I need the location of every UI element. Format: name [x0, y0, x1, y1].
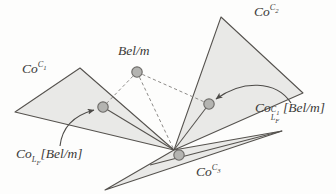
point-projection-c2 — [204, 99, 214, 109]
label-cone-c3-base: Co — [196, 164, 212, 179]
label-cone-c2-base: Co — [254, 4, 270, 19]
label-projection-lf-base: Co — [16, 146, 32, 161]
point-projection-c3 — [174, 150, 184, 160]
label-cone-c1-superscript: C1 — [38, 60, 47, 69]
label-projection-lf-c1: CoC1LF[Bel/m] — [255, 101, 325, 115]
label-cone-c1: CoC1 — [22, 61, 47, 75]
cone-projection-figure: CoC2 CoC1 Bel/m CoC3 CoLF[Bel/m] CoC1LF[… — [0, 0, 336, 194]
label-belief: Bel/m — [118, 44, 150, 58]
label-cone-c3: CoC3 — [196, 164, 221, 178]
point-belief — [132, 67, 142, 77]
cone-c2-shape — [174, 17, 303, 150]
label-cone-c2: CoC2 — [254, 4, 279, 18]
point-projection-c1 — [98, 102, 108, 112]
label-cone-c3-superscript: C3 — [212, 163, 221, 172]
label-projection-lf-c1-subscript: LF — [271, 114, 279, 124]
dashed-line-to-c1 — [103, 72, 137, 107]
label-cone-c2-superscript: C2 — [270, 3, 279, 12]
label-projection-lf-c1-bracket: [Bel/m] — [283, 100, 325, 115]
label-projection-lf: CoLF[Bel/m] — [16, 147, 83, 166]
label-cone-c1-base: Co — [22, 61, 38, 76]
cone-c1-shape — [15, 68, 174, 150]
label-projection-lf-c1-base: Co — [255, 100, 271, 115]
label-projection-lf-subscript: LF — [32, 155, 41, 164]
label-projection-lf-bracket: [Bel/m] — [41, 146, 83, 161]
